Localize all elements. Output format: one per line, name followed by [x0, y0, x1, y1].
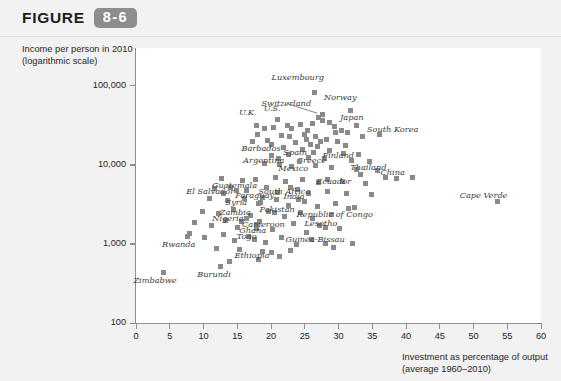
data-point-label: Barbados [241, 143, 280, 153]
data-point-marker [304, 137, 309, 142]
data-point-marker [214, 246, 219, 251]
data-point-label: Ethiopia [235, 250, 270, 260]
x-axis-tick [406, 324, 407, 329]
data-point-marker [325, 189, 330, 194]
data-point-label: Japan [340, 112, 364, 122]
data-point-marker [227, 259, 232, 264]
data-point-marker [209, 223, 214, 228]
data-point-label: Nigeria [212, 213, 243, 223]
data-point-marker [291, 221, 296, 226]
data-point-marker [254, 123, 259, 128]
data-point-label: Syria [226, 197, 248, 207]
data-point-marker [262, 126, 267, 131]
x-axis-tick [304, 324, 305, 329]
data-point-label: Luxembourg [272, 72, 325, 82]
data-point-marker [313, 134, 318, 139]
data-point-label: Mexico [278, 163, 308, 173]
data-point-marker [200, 209, 205, 214]
data-point-marker [288, 248, 293, 253]
data-point-marker [369, 192, 374, 197]
data-point-marker [363, 181, 368, 186]
data-point-label: Burundi [197, 269, 231, 279]
x-axis-tick [473, 324, 474, 329]
data-point-marker [263, 240, 268, 245]
data-point-marker [271, 125, 276, 130]
data-point-marker [394, 176, 399, 181]
figure-root: FIGURE 8-6 Income per person in 2010 (lo… [0, 0, 561, 381]
data-point-marker [273, 175, 278, 180]
x-axis-tick [507, 324, 508, 329]
data-point-label: Cameroon [242, 219, 285, 229]
data-point-marker [221, 232, 226, 237]
data-point-marker [337, 226, 342, 231]
x-axis-tick [169, 324, 170, 329]
data-point-marker [354, 123, 359, 128]
page-footer-text [110, 374, 360, 381]
x-axis-tick [439, 324, 440, 329]
data-point-marker [356, 152, 361, 157]
data-point-label: Ecuador [316, 176, 351, 186]
data-point-marker [308, 142, 313, 147]
data-point-marker [324, 137, 329, 142]
data-point-marker [312, 90, 317, 95]
x-axis-tick [372, 324, 373, 329]
x-axis-tick [271, 324, 272, 329]
data-point-marker [344, 191, 349, 196]
data-point-label: Togo [237, 231, 257, 241]
data-point-label: South Korea [367, 124, 418, 134]
y-axis-tick-label: 10,000 [66, 159, 126, 169]
data-point-marker [274, 197, 279, 202]
data-point-marker [293, 140, 298, 145]
x-axis-tick [203, 324, 204, 329]
data-point-marker [300, 177, 305, 182]
x-axis-tick [136, 324, 137, 329]
data-point-marker [311, 150, 316, 155]
data-point-marker [343, 143, 348, 148]
data-point-label: Rwanda [162, 239, 195, 249]
data-point-marker [289, 126, 294, 131]
x-axis-title: Investment as percentage of output (aver… [402, 352, 561, 375]
data-point-marker [331, 245, 336, 250]
data-point-marker [275, 117, 280, 122]
data-point-label: Pakistan [260, 204, 295, 214]
y-axis-tick [130, 85, 135, 86]
data-point-marker [255, 132, 260, 137]
y-axis-tick [130, 164, 135, 165]
data-point-marker [360, 134, 365, 139]
data-point-marker [279, 133, 284, 138]
y-axis-tick [130, 243, 135, 244]
figure-label: FIGURE [22, 9, 85, 27]
data-point-marker [320, 112, 325, 117]
data-point-label: Norway [324, 92, 357, 102]
data-point-marker [495, 199, 500, 204]
y-axis-tick-label: 100 [66, 317, 126, 327]
data-point-label: India [283, 191, 304, 201]
data-point-marker [320, 118, 325, 123]
x-axis-tick [541, 324, 542, 329]
data-point-label: Guinea-Bissau [285, 234, 344, 244]
data-point-marker [298, 122, 303, 127]
x-axis-title-line2: (average 1960–2010) [402, 364, 561, 376]
data-point-label: Lesotho [304, 218, 337, 228]
header-divider [0, 36, 561, 37]
y-axis-tick-label: 1,000 [66, 238, 126, 248]
x-axis-tick [338, 324, 339, 329]
data-point-marker [283, 179, 288, 184]
data-point-marker [277, 254, 282, 259]
data-point-marker [202, 235, 207, 240]
data-point-label: Zimbabwe [133, 275, 176, 285]
data-point-label: Finland [323, 150, 355, 160]
data-point-marker [345, 130, 350, 135]
data-point-label: El Salvador [186, 186, 234, 196]
x-axis-tick-label: 60 [521, 331, 561, 341]
x-axis-tick [237, 324, 238, 329]
data-point-marker [339, 128, 344, 133]
data-point-marker [329, 165, 334, 170]
data-point-marker [315, 144, 320, 149]
y-axis-tick [130, 323, 135, 324]
data-point-marker [279, 235, 284, 240]
data-point-marker [358, 172, 363, 177]
data-point-marker [333, 130, 338, 135]
data-point-marker [302, 132, 307, 137]
data-point-marker [333, 201, 338, 206]
